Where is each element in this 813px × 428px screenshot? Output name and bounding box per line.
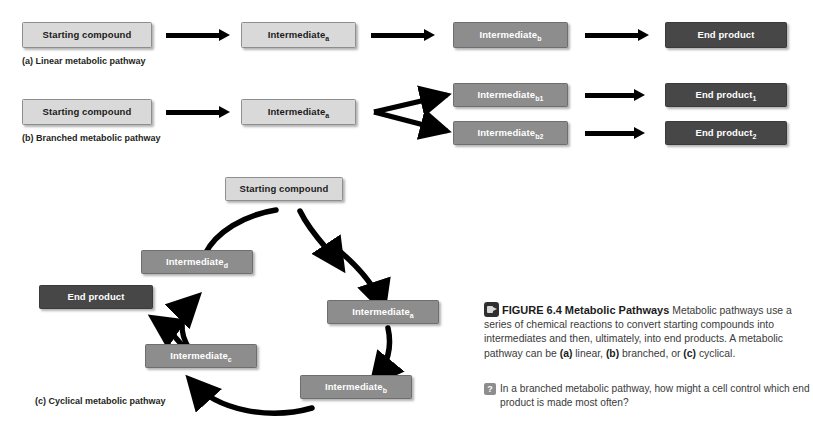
node-c-intermediate-b: Intermediateb (300, 375, 412, 399)
node-label: Intermediateb (325, 382, 387, 392)
caption-tag-a: (a) (560, 348, 573, 359)
arrow-c-c-to-d (182, 299, 195, 350)
arrow-c-d-arc (205, 210, 276, 254)
figure-number: FIGURE 6.4 (502, 304, 562, 316)
video-icon[interactable] (484, 302, 499, 317)
figure-title: Metabolic Pathways (565, 304, 670, 316)
arrow-c-arc-to-a (336, 248, 382, 306)
panel-c-label: (c) Cyclical metabolic pathway (35, 396, 166, 406)
node-label: Intermediated (166, 257, 228, 267)
arrow-c-start-to-a (300, 211, 340, 265)
node-label: Intermediatea (352, 307, 414, 317)
figure-canvas: Starting compound Intermediatea Intermed… (0, 0, 813, 428)
arrow-c-b-to-c (192, 382, 312, 413)
caption-body-2: linear, (572, 348, 606, 359)
question-mark-icon: ? (484, 383, 496, 395)
node-c-end-product: End product (39, 285, 153, 309)
node-c-intermediate-a: Intermediatea (327, 300, 439, 324)
caption-body-4: cyclical. (696, 348, 735, 359)
arrow-c-a-to-b (375, 328, 389, 380)
cycle-arrows (0, 0, 813, 428)
question-text: In a branched metabolic pathway, how mig… (484, 382, 810, 410)
caption-body-3: branched, or (619, 348, 683, 359)
node-label: End product (67, 292, 124, 302)
caption-tag-b: (b) (606, 348, 619, 359)
figure-caption: FIGURE 6.4 Metabolic Pathways Metabolic … (484, 302, 810, 361)
caption-tag-c: (c) (683, 348, 696, 359)
node-c-intermediate-c: Intermediatec (145, 344, 257, 368)
node-label: Intermediatec (170, 351, 232, 361)
figure-question: ? In a branched metabolic pathway, how m… (484, 382, 810, 410)
node-c-intermediate-d: Intermediated (141, 250, 253, 274)
node-c-starting-compound: Starting compound (225, 177, 343, 201)
node-label: Starting compound (240, 184, 329, 194)
